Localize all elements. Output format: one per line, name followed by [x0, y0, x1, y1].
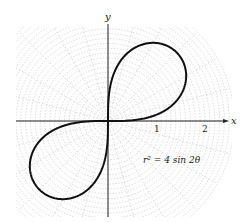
- grid-ring: [0, 0, 234, 222]
- grid-ray: [45, 12, 108, 121]
- polar-plot: x y 1 2 r² = 4 sin 2θ: [0, 0, 246, 222]
- x-tick-1: 1: [154, 124, 160, 134]
- polar-grid: [0, 0, 234, 222]
- x-tick-2: 2: [202, 124, 208, 134]
- grid-ray: [108, 121, 230, 154]
- grid-ray: [19, 32, 108, 121]
- grid-ray: [108, 0, 141, 121]
- grid-ray: [108, 32, 197, 121]
- equation-label: r² = 4 sin 2θ: [143, 155, 201, 165]
- x-axis-arrow-icon: [223, 119, 229, 123]
- grid-ray: [75, 0, 108, 121]
- grid-ray: [108, 121, 217, 184]
- x-axis-label: x: [231, 115, 237, 126]
- y-axis-label: y: [104, 11, 111, 22]
- grid-ray: [108, 121, 171, 222]
- grid-ring: [0, 5, 224, 222]
- grid-ray: [108, 121, 197, 210]
- grid-ray: [108, 88, 230, 121]
- grid-ray: [19, 121, 108, 210]
- grid-ray: [45, 121, 108, 222]
